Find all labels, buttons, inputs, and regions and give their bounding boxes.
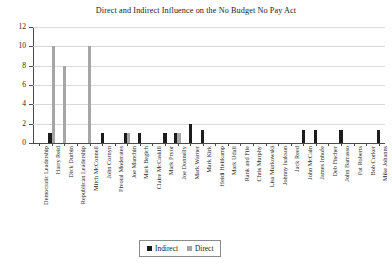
legend-swatch — [187, 246, 192, 251]
x-tick-label: Claire McCaskill — [155, 101, 162, 146]
bar-direct — [63, 66, 66, 143]
x-tick-label: Mark Udall — [230, 115, 237, 146]
x-tick-mark — [39, 143, 40, 146]
x-tick-label-text: Mark Kirk — [205, 146, 212, 175]
x-tick-mark — [328, 143, 329, 146]
x-tick-label: Mark Begich — [142, 111, 149, 146]
x-tick-label: James Inhofe — [318, 111, 325, 146]
x-tick-label-text: John Cornyn — [105, 146, 112, 180]
x-tick-label-text: Chris Murphy — [255, 146, 262, 184]
x-tick-mark — [77, 143, 78, 146]
x-tick-mark — [253, 143, 254, 146]
x-tick-label-text: Mitch McConnell — [92, 146, 99, 193]
x-tick-label-text: Joe Manchin — [130, 146, 137, 180]
x-tick-mark — [140, 143, 141, 146]
x-tick-label-text: Republican Leadership — [79, 146, 86, 206]
x-tick-mark — [303, 143, 304, 146]
x-tick-label-text: Pivotal Moderates — [117, 146, 124, 194]
x-tick-mark — [203, 143, 204, 146]
x-tick-label-text: Mike Johanns — [381, 146, 388, 183]
x-tick-label-text: Mark Begich — [142, 146, 149, 181]
x-tick-label-text: Rank and File — [243, 146, 250, 183]
x-tick-label-text: Deb Fischer — [331, 146, 338, 179]
x-tick-mark — [115, 143, 116, 146]
x-tick-label: Republican Leadership — [79, 86, 86, 146]
x-tick-label: Johnny Isakson — [281, 105, 288, 146]
x-tick-label: Mark Kirk — [205, 117, 212, 146]
x-tick-label-text: Joe Donnelly — [180, 146, 187, 181]
bar-indirect — [138, 133, 141, 143]
y-tick-label: 2 — [0, 119, 26, 128]
x-tick-mark — [52, 143, 53, 146]
x-tick-label: Jack Reed — [293, 118, 300, 146]
bar-indirect — [377, 130, 380, 143]
x-tick-label: Mike Johanns — [381, 109, 388, 146]
x-tick-mark — [316, 143, 317, 146]
x-tick-mark — [215, 143, 216, 146]
x-tick-mark — [90, 143, 91, 146]
x-tick-label: Chris Murphy — [255, 108, 262, 146]
x-tick-mark — [190, 143, 191, 146]
x-tick-mark — [228, 143, 229, 146]
x-tick-label-text: Harry Reid — [54, 146, 61, 176]
chart-container: Direct and Indirect Influence on the No … — [0, 0, 392, 267]
x-tick-label: Democratic Leadership — [42, 85, 49, 146]
x-tick-label: Joe Manchin — [130, 112, 137, 146]
x-tick-mark — [240, 143, 241, 146]
x-tick-mark — [152, 143, 153, 146]
x-tick-label-text: John Barrasso — [343, 146, 350, 184]
bar-indirect — [201, 130, 204, 143]
x-tick-mark — [102, 143, 103, 146]
y-tick-label: 12 — [0, 22, 26, 31]
x-tick-label: Mitch McConnell — [92, 99, 99, 146]
x-tick-label-text: Pat Roberts — [356, 146, 363, 177]
x-tick-label: Joe Donnelly — [180, 111, 187, 146]
x-tick-label-text: Johnny Isakson — [281, 146, 288, 187]
x-tick-label: Deb Fischer — [331, 113, 338, 146]
y-tick-label: 4 — [0, 99, 26, 108]
x-tick-label: Pivotal Moderates — [117, 98, 124, 146]
x-tick-label: Lisa Murkowski — [268, 103, 275, 146]
x-tick-label: Dick Durbin — [67, 112, 74, 146]
bar-indirect — [302, 130, 305, 143]
x-tick-label: Bob Corker — [369, 114, 376, 146]
x-tick-label: Harry Reid — [54, 116, 61, 146]
y-tick-mark — [29, 143, 33, 144]
x-tick-label: Heidi Heitkamp — [218, 104, 225, 146]
x-tick-label-text: Claire McCaskill — [155, 146, 162, 191]
x-tick-label: John Barrasso — [343, 108, 350, 146]
x-tick-mark — [278, 143, 279, 146]
x-tick-label-text: Heidi Heitkamp — [218, 146, 225, 188]
chart-title: Direct and Indirect Influence on the No … — [0, 6, 392, 15]
bar-indirect — [189, 124, 192, 143]
x-tick-label-text: Mark Udall — [230, 146, 237, 177]
x-tick-mark — [379, 143, 380, 146]
x-tick-mark — [266, 143, 267, 146]
legend-swatch — [147, 246, 152, 251]
x-tick-label: John McCain — [306, 110, 313, 146]
x-tick-label-text: Democratic Leadership — [42, 146, 49, 207]
legend-item: Indirect — [147, 245, 178, 252]
bar-indirect — [314, 130, 317, 143]
x-tick-mark — [165, 143, 166, 146]
x-tick-label-text: Bob Corker — [369, 146, 376, 178]
x-tick-label: John Cornyn — [105, 112, 112, 146]
bar-direct — [88, 46, 91, 143]
y-tick-label: 10 — [0, 41, 26, 50]
x-tick-label: Mark Warner — [193, 111, 200, 146]
y-tick-label: 6 — [0, 80, 26, 89]
bar-indirect — [174, 133, 177, 143]
x-tick-label: Pat Roberts — [356, 115, 363, 146]
x-tick-mark — [354, 143, 355, 146]
x-tick-label: Rank and File — [243, 109, 250, 146]
x-tick-mark — [341, 143, 342, 146]
x-tick-label-text: Mark Pryor — [167, 146, 174, 177]
x-tick-label: Mark Pryor — [167, 115, 174, 146]
legend-label: Indirect — [155, 245, 178, 252]
x-tick-label-text: Jack Reed — [293, 146, 300, 174]
x-tick-label-text: Dick Durbin — [67, 146, 74, 180]
legend-item: Direct — [187, 245, 213, 252]
bar-indirect — [124, 133, 127, 143]
x-tick-mark — [366, 143, 367, 146]
y-tick-label: 0 — [0, 138, 26, 147]
